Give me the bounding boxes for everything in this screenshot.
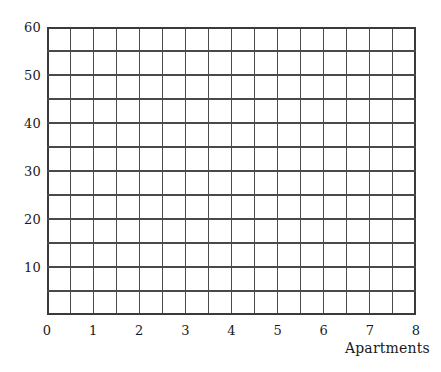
- x-tick-label: 6: [312, 324, 336, 337]
- x-tick-label: 3: [173, 324, 197, 337]
- x-tick-label: 1: [81, 324, 105, 337]
- x-tick-label: 0: [35, 324, 59, 337]
- x-tick-label: 5: [266, 324, 290, 337]
- x-tick-label: 4: [220, 324, 244, 337]
- chart-figure: 102030405060 012345678 Apartments: [0, 0, 441, 372]
- x-tick-label: 7: [358, 324, 382, 337]
- x-tick-label: 8: [404, 324, 428, 337]
- x-axis-title: Apartments: [0, 340, 430, 356]
- x-tick-label: 2: [127, 324, 151, 337]
- x-axis-tick-labels: 012345678: [0, 0, 441, 372]
